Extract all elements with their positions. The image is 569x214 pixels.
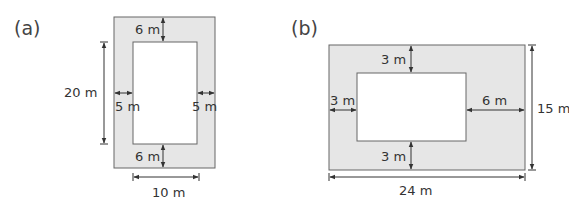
diagram-canvas: (a) 6 m 6 m 5 m 5 m 20 m 10 m (b) 3 m: [0, 0, 569, 214]
figure-a-inner-rect: [133, 42, 197, 144]
figure-b-label: (b): [291, 17, 318, 39]
figure-b-top-label: 3 m: [381, 52, 406, 67]
figure-a-right-label: 5 m: [192, 99, 217, 114]
figure-a-height-label: 20 m: [64, 85, 97, 100]
figure-a-top-label: 6 m: [135, 22, 160, 37]
figure-b-bottom-label: 3 m: [381, 149, 406, 164]
figure-a-bottom-label: 6 m: [135, 149, 160, 164]
figure-b: (b) 3 m 3 m 3 m 6 m 15 m 24 m: [291, 17, 569, 198]
figure-a-label: (a): [14, 17, 40, 39]
figure-b-width-label: 24 m: [399, 183, 432, 198]
figure-a-left-label: 5 m: [115, 99, 140, 114]
figure-b-left-label: 3 m: [330, 93, 355, 108]
figure-a: (a) 6 m 6 m 5 m 5 m 20 m 10 m: [14, 17, 217, 200]
figure-b-height-label: 15 m: [537, 101, 569, 116]
figure-a-width-label: 10 m: [152, 185, 185, 200]
figure-b-inner-rect: [357, 73, 466, 141]
figure-b-right-label: 6 m: [482, 93, 507, 108]
